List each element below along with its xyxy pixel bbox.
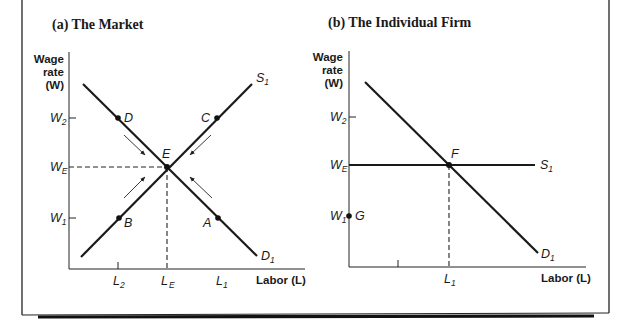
panel-a-title: (a) The Market [52,17,144,33]
supply-label: S1 [256,71,269,87]
panel-market: (a) The Market Wage rate (W) W2 WE W1 L2… [34,17,306,290]
point-a [215,215,221,221]
svg-text:G: G [355,209,365,223]
tick-w2: W2 [50,111,67,127]
svg-text:Wage: Wage [34,53,64,65]
point-d [115,115,121,121]
svg-text:Wage: Wage [313,51,343,63]
panel-b-title: (b) The Individual Firm [328,15,472,31]
tick-we: WE [50,160,68,176]
tick-l1-b: L1 [444,272,456,288]
panel-a-x-axis-label: Labor (L) [256,274,306,286]
tick-l1: L1 [216,274,228,290]
svg-text:rate: rate [322,64,343,76]
svg-text:rate: rate [43,66,64,78]
svg-text:D: D [124,111,133,125]
tick-l2: L2 [113,274,125,290]
point-b [116,215,122,221]
panel-individual-firm: (b) The Individual Firm Wage rate (W) W2… [313,15,591,288]
svg-text:E: E [162,147,171,161]
svg-text:C: C [201,111,211,125]
tick-le: LE [161,274,175,290]
svg-text:B: B [124,216,132,230]
svg-text:A: A [202,216,211,230]
panel-b-y-axis-label: Wage rate (W) [313,51,343,89]
point-f [446,162,452,168]
firm-supply-label: S1 [540,158,553,174]
point-g [346,213,352,219]
demand-label: D1 [261,249,275,265]
tick-w1-b: W1 [330,209,347,225]
figure-canvas: (a) The Market Wage rate (W) W2 WE W1 L2… [0,0,629,323]
panel-b-x-axis-label: Labor (L) [541,272,591,284]
svg-text:(W): (W) [324,77,343,89]
tick-w2-b: W2 [330,110,347,126]
tick-we-b: WE [330,158,348,174]
firm-demand-label: D1 [541,247,555,263]
firm-demand-curve [365,82,538,253]
svg-text:F: F [451,147,460,161]
panel-a-y-axis-label: Wage rate (W) [34,53,64,91]
point-c [214,115,220,121]
demand-curve [83,84,257,256]
tick-w1: W1 [50,211,67,227]
svg-text:(W): (W) [45,79,64,91]
point-e [164,164,170,170]
